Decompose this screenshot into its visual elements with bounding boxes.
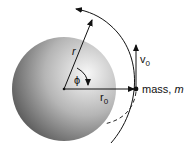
orbit-diagram: r ϕ r0 v0 mass, m (0, 0, 192, 152)
center-point (63, 88, 66, 91)
label-mass: mass, m (142, 83, 184, 95)
mass-point (134, 87, 139, 92)
label-phi: ϕ (74, 74, 80, 86)
label-v0: v0 (140, 53, 151, 68)
